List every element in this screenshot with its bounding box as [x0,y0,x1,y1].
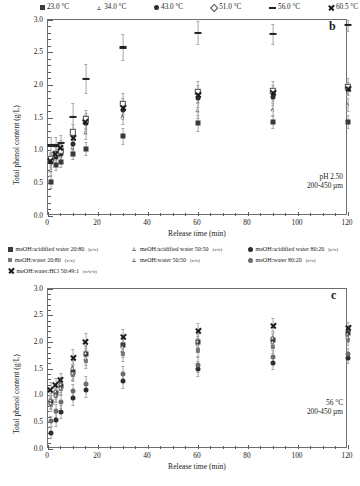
error-bar-cap [121,98,124,99]
legend-item-c-6[interactable]: meOH:water:HCl 50:49:1(v/v/v) [8,268,97,274]
error-bar-cap [121,329,124,330]
data-point [82,78,89,80]
y-tick-label: 1.5 [23,113,43,122]
error-bar-cap [84,139,87,140]
legend-item-b-0[interactable]: 23.0 °C [40,4,69,11]
legend-item-b-3[interactable]: 51.0 °C [211,4,241,11]
x-tick [198,212,199,217]
x-tick [323,213,324,216]
data-point [53,150,59,156]
data-point [121,372,126,377]
data-point [120,334,126,340]
data-point [48,158,54,164]
x-tick [85,213,86,216]
legend-item-b-4[interactable]: 56.0 °C [269,4,300,11]
y-tick-label: 1.0 [23,390,43,399]
error-bar-cap [346,128,349,129]
legend-item-b-4-label: 56.0 °C [278,4,300,11]
error-bar-cap [346,78,349,79]
x-tick [185,213,186,216]
panel-b-letter: b [329,19,336,34]
data-point [120,114,125,119]
legend-item-c-2-label: meOH:acidified water 80:20 [256,246,325,252]
y-tick [48,98,51,99]
x-tick [173,446,174,449]
x-tick [273,446,274,449]
y-tick [48,369,53,370]
error-bar-cap [121,366,124,367]
y-tick-label: 1.0 [23,145,43,154]
error-bar-cap [59,395,62,396]
data-point [70,354,76,360]
figure-root: 23.0 °C34.0 °C43.0 °C51.0 °C56.0 °C60.5 … [0,0,360,486]
legend-item-c-1[interactable]: meOH:acidified water 50:50(v/v) [132,246,222,252]
x-tick [173,213,174,216]
error-bar-cap [121,357,124,358]
legend-item-c-2[interactable]: meOH:acidified water 80:20(v/v) [248,246,338,252]
data-point [195,91,201,97]
data-point [346,352,351,357]
legend-item-b-2[interactable]: 43.0 °C [154,4,183,11]
y-tick [48,337,51,338]
data-point [120,46,127,48]
y-tick [48,342,53,343]
circle-filled-icon [154,5,159,10]
x-tick [310,446,311,449]
legend-item-c-0[interactable]: meOH:acidified water 20:80(v/v) [8,246,98,252]
legend-item-c-4[interactable]: meOH:water 50:50(v/v) [132,257,200,263]
data-point [345,102,350,107]
error-bar-cap [271,44,274,45]
error-bar-cap [196,131,199,132]
legend-item-b-1[interactable]: 34.0 °C [97,4,126,11]
x-tick [98,445,99,450]
x-tick-label: 80 [236,218,258,227]
x-tick [210,213,211,216]
y-tick [48,91,51,92]
x-tick [310,213,311,216]
error-bar-cap [346,322,349,323]
x-tick-label: 0 [36,218,58,227]
y-tick [48,189,51,190]
error-bar-cap [59,135,62,136]
data-point [83,356,88,361]
data-point [83,130,88,135]
error-bar-cap [121,388,124,389]
y-tick [48,358,51,359]
error-bar-cap [71,380,74,381]
x-tick [110,446,111,449]
x-tick [298,445,299,450]
error-bar-cap [196,357,199,358]
data-point [83,147,88,152]
y-tick [48,294,51,295]
cross-x-icon [8,268,14,274]
legend-item-c-5[interactable]: meOH:water 80:20(v/v) [248,257,315,263]
legend-item-b-5[interactable]: 60.5 °C [328,4,358,11]
data-point [196,348,200,352]
error-bar-cap [121,128,124,129]
x-tick [285,446,286,449]
y-tick [48,59,51,60]
y-tick [48,124,51,125]
data-point [271,345,275,349]
data-point [270,33,277,35]
data-point [71,151,76,156]
error-bar-cap [84,376,87,377]
error-bar-cap [84,333,87,334]
panel-c-annotation: 56 °C 200-450 µm [307,398,343,416]
error-bar-cap [346,348,349,349]
y-tick [48,33,51,34]
legend-item-c-3[interactable]: meOH:water 20:80(v/v) [8,257,75,263]
dash-icon [269,7,276,9]
y-tick-label: 2.0 [23,337,43,346]
data-point [121,378,126,383]
x-tick [160,446,161,449]
error-bar-cap [196,85,199,86]
y-tick [48,363,51,364]
error-bar-cap [121,60,124,61]
y-tick [48,216,53,217]
x-tick [148,445,149,450]
y-tick [48,78,51,79]
data-point [53,382,59,388]
x-tick [198,445,199,450]
error-bar-cap [54,170,57,171]
